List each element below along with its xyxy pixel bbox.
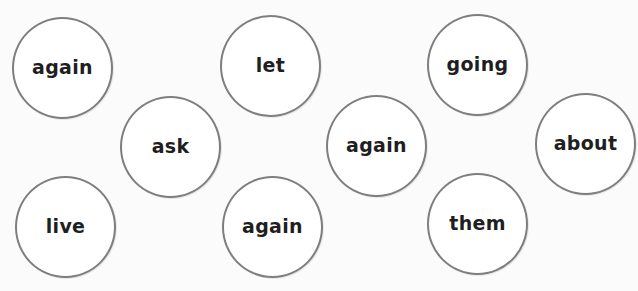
word-bubble-again-1[interactable]: again [12, 17, 113, 119]
word-bubble-again-3[interactable]: again [222, 176, 323, 278]
word-bubble-live[interactable]: live [15, 176, 116, 278]
bubble-word: ask [152, 137, 190, 156]
bubble-word: live [46, 217, 86, 236]
bubble-word: about [554, 134, 618, 153]
sight-word-bubbles: again let going ask again about live aga… [0, 0, 638, 291]
bubble-word: going [447, 55, 509, 74]
word-bubble-again-2[interactable]: again [326, 95, 427, 197]
word-bubble-about[interactable]: about [535, 93, 636, 195]
bubble-word: again [346, 136, 407, 155]
bubble-word: them [449, 214, 506, 233]
word-bubble-them[interactable]: them [427, 173, 528, 275]
bubble-word: let [256, 56, 285, 75]
bubble-word: again [32, 58, 93, 77]
bubble-word: again [242, 217, 303, 236]
word-bubble-let[interactable]: let [220, 15, 321, 117]
word-bubble-ask[interactable]: ask [120, 96, 221, 198]
word-bubble-going[interactable]: going [427, 14, 528, 116]
